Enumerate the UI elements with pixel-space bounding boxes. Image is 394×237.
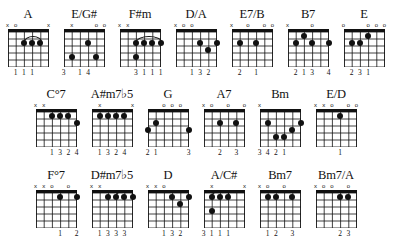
chord-diagram-asharpm7b5: A#m7♭5xx1324	[84, 88, 140, 158]
fretboard-grid	[92, 190, 133, 228]
finger-number: 2	[274, 147, 278, 158]
fretboard-grid	[316, 109, 357, 147]
fret-dot	[105, 113, 111, 119]
fret-dot	[141, 40, 147, 46]
finger-number: 1	[282, 147, 286, 158]
muted-string-icon: x	[131, 102, 134, 109]
chord-name: Bm7	[268, 169, 292, 183]
string-markers: xoo	[260, 183, 301, 190]
fretboard-grid	[204, 109, 245, 147]
fret-dot	[97, 113, 103, 119]
open-string-icon: o	[210, 102, 213, 109]
finger-number: 3	[106, 147, 110, 158]
chord-name: F#m	[129, 8, 151, 22]
finger-numbers: 23	[312, 228, 360, 237]
string-markers: xxooo	[316, 102, 357, 109]
nut	[288, 29, 329, 32]
finger-numbers: 111	[4, 67, 52, 78]
fret-dot	[214, 40, 220, 46]
chord-name: D/A	[186, 8, 207, 22]
finger-number: 3	[114, 228, 118, 237]
nut	[316, 109, 357, 112]
chord-diagram-d: Dxxo132	[140, 169, 196, 237]
finger-number: 3	[346, 228, 350, 237]
finger-number: 2	[66, 147, 70, 158]
open-string-icon: o	[366, 22, 369, 29]
fret-dot	[273, 134, 279, 140]
finger-number: 2	[338, 228, 342, 237]
fretboard-grid	[8, 29, 49, 67]
nut	[176, 29, 217, 32]
fret-dot	[309, 40, 315, 46]
fret-dot	[158, 40, 164, 46]
chord-name: E/G#	[71, 8, 97, 22]
fret-dot	[130, 194, 136, 200]
chord-name: E	[360, 8, 367, 22]
finger-numbers: 2134	[284, 67, 332, 78]
fret-dot	[301, 33, 307, 39]
finger-number: 3	[62, 67, 66, 78]
open-string-icon: o	[310, 22, 313, 29]
muted-string-icon: x	[118, 22, 121, 29]
chord-diagram-cdim7: C°7xx1324	[28, 88, 84, 158]
fret-dot	[205, 47, 211, 53]
finger-number: 3	[234, 147, 238, 158]
string-markers: xoo	[64, 22, 105, 29]
muted-string-icon: x	[47, 22, 50, 29]
finger-number: 1	[98, 228, 102, 237]
open-string-icon: o	[170, 102, 173, 109]
fretboard-grid	[148, 190, 189, 228]
fretboard-grid	[148, 109, 189, 147]
nut	[260, 190, 301, 193]
fret-dot	[326, 40, 332, 46]
chord-diagram-g: Gooo213	[140, 88, 196, 158]
open-string-icon: o	[266, 183, 269, 190]
finger-number: 1	[226, 228, 230, 237]
fret-dot	[49, 113, 55, 119]
finger-number: 2	[75, 228, 79, 237]
finger-number: 4	[75, 147, 79, 158]
string-markers: ooo	[148, 102, 189, 109]
open-string-icon: o	[246, 22, 249, 29]
finger-number: 3	[106, 228, 110, 237]
open-string-icon: o	[162, 183, 165, 190]
muted-string-icon: x	[146, 183, 149, 190]
fret-dot	[217, 120, 223, 126]
chord-row-3: F°7xxoo12D#m7♭5xx1333Dxxo132A/C#xx3111Bm…	[0, 160, 394, 237]
nut	[344, 29, 385, 32]
muted-string-icon: x	[210, 183, 213, 190]
finger-number: 4	[266, 147, 270, 158]
nut	[36, 190, 77, 193]
string-markers: xox	[8, 22, 49, 29]
finger-number: 3	[258, 147, 262, 158]
fret-dot	[253, 40, 259, 46]
fretboard-grid	[260, 190, 301, 228]
fret-dot	[265, 194, 271, 200]
finger-number: 4	[86, 67, 90, 78]
fretboard-grid	[316, 190, 357, 228]
open-string-icon: o	[190, 22, 193, 29]
fretboard-grid	[176, 29, 217, 67]
open-string-icon: o	[383, 22, 386, 29]
fret-dot	[169, 194, 175, 200]
fret-dot	[225, 194, 231, 200]
open-string-icon: o	[330, 183, 333, 190]
finger-number: 2	[146, 147, 150, 158]
finger-numbers: 1324	[32, 147, 80, 158]
finger-number: 2	[114, 147, 118, 158]
finger-number: 1	[254, 67, 258, 78]
chord-name: D	[164, 169, 173, 183]
fret-dot	[113, 113, 119, 119]
open-string-icon: o	[95, 22, 98, 29]
muted-string-icon: x	[90, 183, 93, 190]
finger-numbers: 3421	[256, 147, 304, 158]
fretboard-grid	[92, 109, 133, 147]
fret-dot	[345, 194, 351, 200]
open-string-icon: o	[282, 183, 285, 190]
muted-string-icon: x	[98, 183, 101, 190]
chord-name: C°7	[47, 88, 66, 102]
finger-numbers: 132	[144, 228, 192, 237]
finger-number: 1	[14, 67, 18, 78]
string-markers: xooo	[204, 102, 245, 109]
finger-number: 3	[187, 147, 191, 158]
